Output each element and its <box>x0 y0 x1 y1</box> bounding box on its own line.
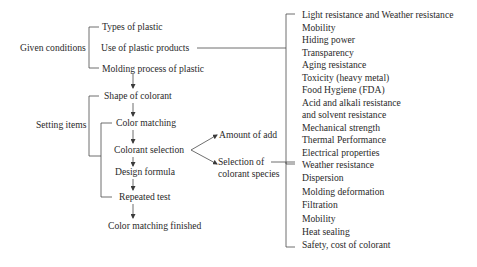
requirement-item: Transparency <box>302 47 354 58</box>
use-of-plastic-products: Use of plastic products <box>101 42 189 53</box>
given-conditions-bracket <box>89 27 99 68</box>
selection-of-label: Selection of <box>218 156 264 167</box>
requirement-item: and solvent resistance <box>302 109 386 120</box>
step-color-matching: Color matching <box>116 117 176 128</box>
arrow-to-species <box>191 150 217 164</box>
criteria-item: Filtration <box>302 199 338 210</box>
criteria-item: Molding deformation <box>302 186 384 197</box>
types-of-plastic: Types of plastic <box>102 21 163 32</box>
setting-items-label: Setting items <box>36 119 86 130</box>
arrow-to-amount <box>191 135 217 150</box>
colorant-species-label: colorant species <box>218 168 280 179</box>
amount-of-add: Amount of add <box>219 129 277 140</box>
requirement-item: Mechanical strength <box>302 122 380 133</box>
criteria-item: Weather resistance <box>302 159 374 170</box>
step-repeated-test: Repeated test <box>119 191 170 202</box>
requirement-item: Hiding power <box>302 34 355 45</box>
requirement-item: Mobility <box>302 22 336 33</box>
step-colorant-selection: Colorant selection <box>114 144 184 155</box>
step-design-formula: Design formula <box>115 166 175 177</box>
requirement-item: Food Hygiene (FDA) <box>302 84 385 95</box>
requirement-item: Aging resistance <box>302 59 366 70</box>
steps-bracket <box>101 123 112 197</box>
shape-of-colorant: Shape of colorant <box>104 90 172 101</box>
criteria-item: Safety, cost of colorant <box>302 239 390 250</box>
requirement-item: Electrical properties <box>302 147 380 158</box>
color-matching-finished: Color matching finished <box>108 220 201 231</box>
criteria-item: Dispersion <box>302 172 344 183</box>
molding-process: Molding process of plastic <box>102 63 204 74</box>
requirements-bracket <box>286 14 295 164</box>
requirement-item: Toxicity (heavy metal) <box>302 72 389 83</box>
criteria-bracket <box>286 162 295 247</box>
criteria-item: Heat sealing <box>302 226 350 237</box>
setting-items-bracket <box>89 96 101 156</box>
given-conditions-label: Given conditions <box>20 42 86 53</box>
requirement-item: Light resistance and Weather resistance <box>302 9 453 20</box>
requirement-item: Acid and alkali resistance <box>302 97 401 108</box>
requirement-item: Thermal Performance <box>302 134 386 145</box>
criteria-item: Mobility <box>302 213 336 224</box>
